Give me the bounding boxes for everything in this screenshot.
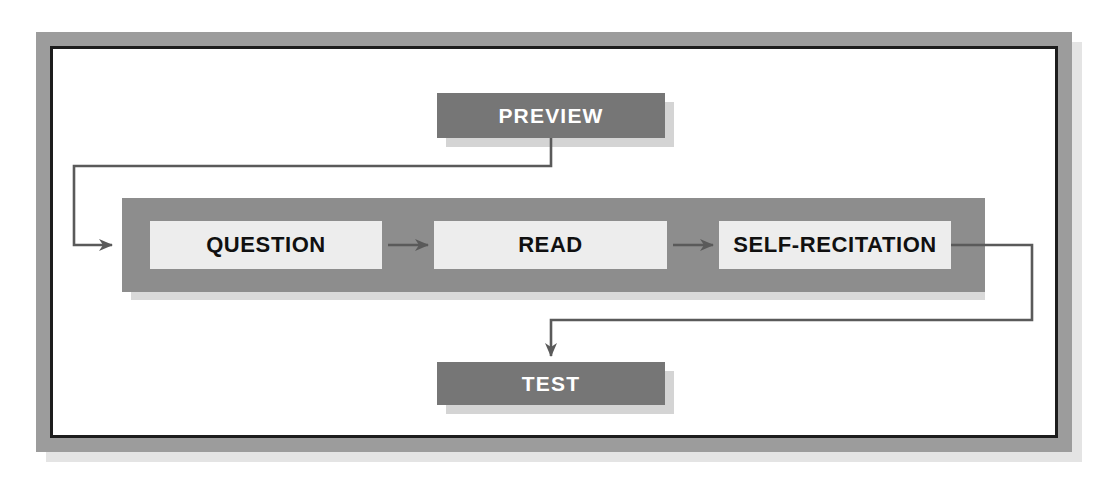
node-question-label: QUESTION [206, 232, 326, 258]
node-test-label: TEST [522, 372, 580, 396]
diagram-canvas: PREVIEW QUESTION READ SELF-RECITATION TE… [0, 0, 1102, 482]
node-question[interactable]: QUESTION [150, 221, 382, 269]
node-preview[interactable]: PREVIEW [437, 93, 665, 138]
node-test[interactable]: TEST [437, 362, 665, 405]
node-read-label: READ [518, 232, 583, 258]
node-read[interactable]: READ [434, 221, 667, 269]
node-self-recitation-label: SELF-RECITATION [733, 232, 937, 258]
node-self-recitation[interactable]: SELF-RECITATION [719, 221, 951, 269]
node-preview-label: PREVIEW [498, 104, 603, 128]
